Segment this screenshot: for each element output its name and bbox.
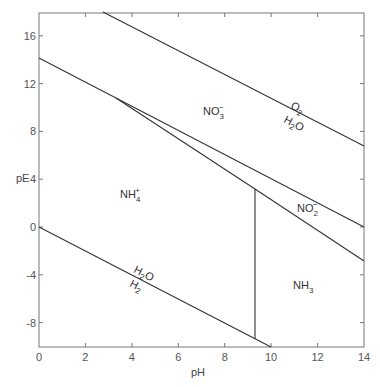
y-axis: 16 12 8 4 0 -4 -8 pE: [16, 30, 364, 329]
x-axis-label: pH: [191, 366, 205, 378]
x-tick-label: 12: [311, 351, 323, 363]
line-no2-nh4: [116, 98, 255, 189]
x-tick-label: 0: [36, 351, 42, 363]
x-tick-label: 6: [175, 351, 181, 363]
x-tick-label: 14: [358, 351, 370, 363]
y-tick-label: 12: [24, 78, 36, 90]
x-tick-label: 8: [222, 351, 228, 363]
y-tick-label: 0: [30, 221, 36, 233]
y-tick-label: 4: [30, 173, 36, 185]
label-nh3: NH3: [293, 279, 314, 295]
line-h2o-h2: [39, 227, 271, 347]
label-no2: NO2−: [297, 200, 319, 218]
y-tick-label: 16: [24, 30, 36, 42]
y-axis-label: pE: [16, 172, 29, 184]
x-tick-label: 4: [129, 351, 135, 363]
line-no2-nh3: [255, 189, 364, 261]
y-tick-label: 8: [30, 125, 36, 137]
x-axis: 0 2 4 6 8 10 12 14 pH: [36, 13, 370, 378]
line-no3-no2: [116, 98, 364, 227]
boundary-lines: [39, 12, 364, 347]
line-o2-h2o: [103, 12, 364, 146]
x-tick-label: 10: [265, 351, 277, 363]
y-tick-label: -8: [26, 317, 36, 329]
label-h2o-upper: H2O: [281, 113, 307, 136]
species-labels: O2 H2O NO3− NH4+ NO2− NH3 H2O H2: [120, 99, 319, 296]
label-nh4: NH4+: [120, 186, 141, 204]
x-tick-label: 2: [82, 351, 88, 363]
line-no3-nh4: [39, 58, 116, 98]
label-no3: NO3−: [203, 103, 225, 121]
y-tick-label: -4: [26, 269, 36, 281]
pe-ph-diagram: 0 2 4 6 8 10 12 14 pH 16 12 8 4 0 -4 -8 …: [0, 0, 380, 387]
